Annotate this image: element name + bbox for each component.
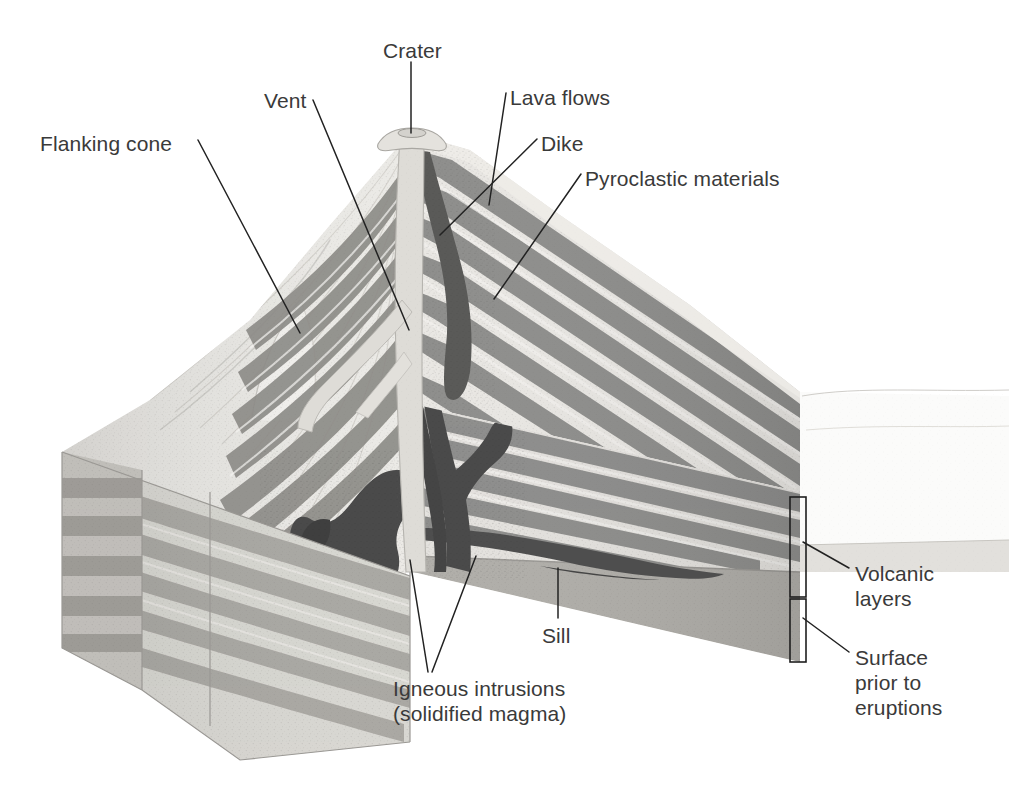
label-crater: Crater [383,38,442,63]
label-vent: Vent [264,88,306,113]
label-volcanic-layers: Volcanic layers [855,561,934,611]
label-flanking-cone: Flanking cone [40,131,172,156]
crater-opening [398,129,426,138]
label-dike: Dike [541,131,583,156]
label-sill: Sill [542,623,570,648]
volcano-diagram: Crater Vent Lava flows Flanking cone Dik… [0,0,1009,812]
background-terrain [800,390,1009,572]
label-surface-prior-to-eruptions: Surface prior to eruptions [855,645,942,720]
label-igneous-intrusions: Igneous intrusions (solidified magma) [393,676,566,726]
label-lava-flows: Lava flows [510,85,610,110]
label-pyroclastic-materials: Pyroclastic materials [585,166,780,191]
